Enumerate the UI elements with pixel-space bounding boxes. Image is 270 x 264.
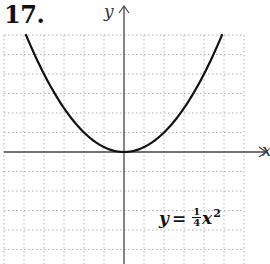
x-axis	[4, 147, 266, 157]
equation-fraction: 1 4	[192, 207, 201, 228]
y-axis	[119, 6, 129, 264]
coordinate-plane	[0, 0, 270, 264]
equation-variable: x	[202, 208, 212, 228]
equation-equals: =	[172, 208, 186, 228]
fraction-denominator: 4	[193, 218, 200, 228]
equation-label: y = 1 4 x 2	[159, 207, 221, 228]
y-axis-label: y	[104, 1, 114, 21]
equation-exponent: 2	[213, 207, 221, 220]
equation-lhs: y	[159, 208, 169, 228]
x-axis-label: x	[262, 140, 270, 160]
